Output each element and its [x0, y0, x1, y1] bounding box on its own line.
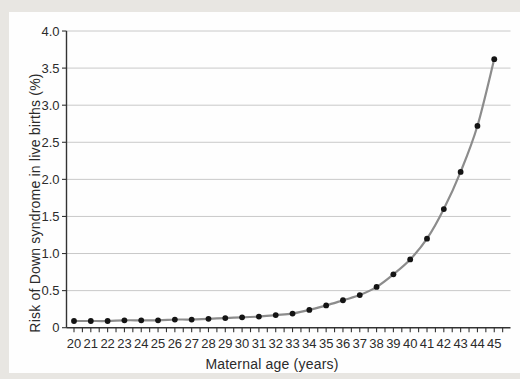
y-tick-label: 1.5	[41, 209, 59, 224]
data-point	[88, 318, 94, 324]
x-axis-title: Maternal age (years)	[205, 356, 338, 372]
data-point	[357, 292, 363, 298]
data-point	[189, 317, 195, 323]
x-tick-label: 22	[100, 336, 114, 351]
y-axis-title: Risk of Down syndrome in live births (%)	[27, 73, 43, 332]
data-point	[374, 284, 380, 290]
axis-ticks	[62, 31, 503, 332]
risk-curve-path	[74, 59, 494, 321]
data-point	[172, 317, 178, 323]
x-tick-labels: 2021222324252627282930313233343536373839…	[67, 336, 502, 351]
x-tick-label: 41	[420, 336, 434, 351]
data-point	[239, 314, 245, 320]
x-tick-label: 39	[386, 336, 400, 351]
x-tick-label: 25	[151, 336, 165, 351]
data-point	[105, 318, 111, 324]
x-tick-label: 34	[302, 336, 316, 351]
x-tick-label: 28	[201, 336, 215, 351]
data-point	[306, 307, 312, 313]
x-tick-label: 37	[353, 336, 367, 351]
data-point	[222, 315, 228, 321]
x-tick-label: 40	[403, 336, 417, 351]
x-tick-label: 20	[67, 336, 81, 351]
data-point	[138, 317, 144, 323]
x-tick-label: 21	[84, 336, 98, 351]
y-tick-label: 0.5	[41, 283, 59, 298]
data-point	[290, 311, 296, 317]
data-point	[390, 271, 396, 277]
x-tick-label: 35	[319, 336, 333, 351]
data-point	[424, 236, 430, 242]
y-tick-label: 2.0	[41, 172, 59, 187]
x-tick-label: 43	[453, 336, 467, 351]
data-point	[206, 316, 212, 322]
x-tick-label: 42	[437, 336, 451, 351]
x-tick-label: 24	[134, 336, 148, 351]
x-tick-label: 45	[487, 336, 501, 351]
y-tick-label: 2.5	[41, 135, 59, 150]
y-tick-label: 4.0	[41, 24, 59, 39]
x-tick-label: 23	[117, 336, 131, 351]
risk-chart: 00.51.01.52.02.53.03.54.0 20212223242526…	[0, 0, 520, 379]
risk-curve	[74, 59, 494, 321]
data-point	[273, 312, 279, 318]
data-point	[458, 169, 464, 175]
x-tick-label: 27	[184, 336, 198, 351]
y-tick-labels: 00.51.01.52.02.53.03.54.0	[41, 24, 59, 336]
y-tick-label: 1.0	[41, 246, 59, 261]
x-tick-label: 26	[168, 336, 182, 351]
y-tick-label: 3.0	[41, 98, 59, 113]
x-tick-label: 29	[218, 336, 232, 351]
data-point	[323, 303, 329, 309]
data-point	[340, 297, 346, 303]
x-tick-label: 32	[268, 336, 282, 351]
data-point	[441, 206, 447, 212]
figure: 00.51.01.52.02.53.03.54.0 20212223242526…	[0, 0, 520, 379]
data-point	[71, 318, 77, 324]
y-tick-label: 3.5	[41, 61, 59, 76]
x-tick-label: 38	[369, 336, 383, 351]
gridlines	[67, 31, 511, 291]
data-point	[407, 257, 413, 263]
data-point	[491, 56, 497, 62]
data-points	[71, 56, 497, 324]
y-tick-label: 0	[52, 320, 59, 335]
data-point	[155, 317, 161, 323]
x-tick-label: 30	[235, 336, 249, 351]
data-point	[122, 317, 128, 323]
data-point	[475, 123, 481, 129]
x-tick-label: 44	[470, 336, 484, 351]
data-point	[256, 314, 262, 320]
x-tick-label: 36	[336, 336, 350, 351]
x-tick-label: 31	[252, 336, 266, 351]
x-tick-label: 33	[285, 336, 299, 351]
